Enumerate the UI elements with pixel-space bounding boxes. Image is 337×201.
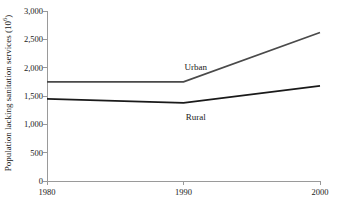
- series-lines: [47, 33, 320, 103]
- series-label-rural: Rural: [186, 112, 206, 121]
- x-axis-tick-label: 1990: [175, 188, 192, 197]
- chart-figure: Population lacking sanitation services (…: [0, 0, 337, 201]
- series-line-urban: [47, 33, 320, 82]
- x-axis-tick-label: 2000: [312, 188, 329, 197]
- plot-area: [0, 0, 337, 201]
- series-label-urban: Urban: [185, 62, 208, 71]
- x-axis-ticks: [47, 181, 320, 185]
- axes: [47, 11, 320, 181]
- series-line-rural: [47, 86, 320, 103]
- x-axis-tick-label: 1980: [39, 188, 56, 197]
- y-axis-ticks: [43, 11, 47, 181]
